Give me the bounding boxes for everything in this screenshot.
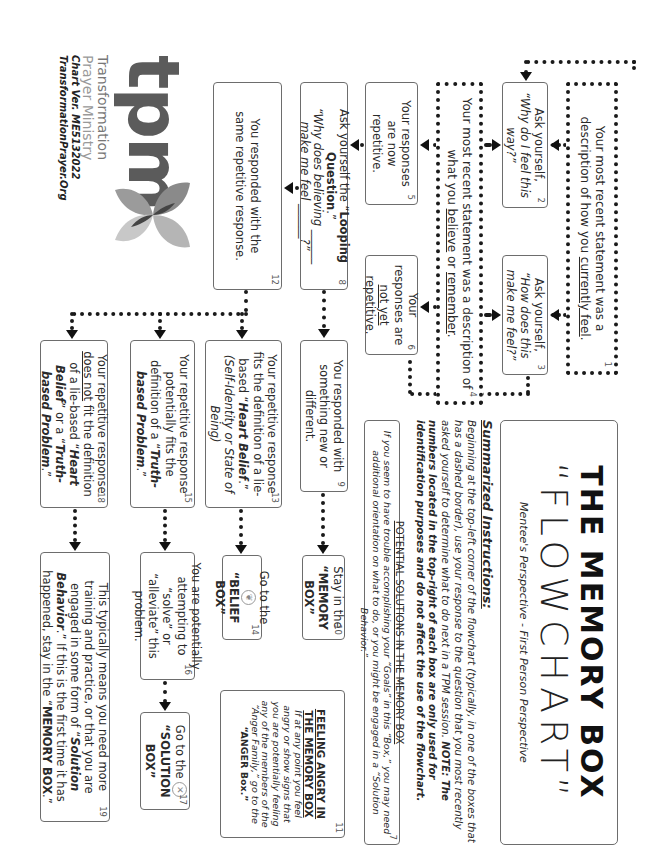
arrow	[550, 139, 559, 151]
box-1-text: Your most recent statement was a descrip…	[577, 94, 606, 363]
box-number: 5	[406, 195, 416, 200]
butterfly-leaf-icon	[110, 175, 195, 255]
box-number: 1	[603, 362, 613, 367]
perspective-label: Mentee's Perspective - First Person Pers…	[517, 421, 530, 844]
box-4-believe-remember: Your most recent statement was a descrip…	[436, 82, 483, 405]
connector	[322, 290, 326, 328]
arrow	[550, 309, 559, 321]
arrow	[520, 72, 532, 81]
connector	[408, 360, 412, 394]
arrow	[159, 702, 171, 711]
box-number: 15	[183, 492, 193, 503]
box-4-text: Your most recent statement was a descrip…	[445, 94, 474, 393]
box-7-heading: POTENTIAL SOLUTIONS IN THE MEMORY BOX	[393, 521, 405, 745]
box-number: 14	[250, 624, 260, 635]
title-box: THE MEMORY BOX “FLOWCHART” Mentee's Pers…	[500, 420, 618, 845]
belief-icon: ❦	[242, 590, 257, 605]
instructions-heading: Summarized Instructions:	[479, 420, 495, 845]
logo-line-1: Transformation	[95, 55, 110, 201]
flowchart-page: Your most recent statement was a descrip…	[0, 0, 660, 866]
box-10-text: Stay in the“MEMORY BOX”	[302, 564, 344, 631]
box-number: 18	[96, 492, 106, 503]
box-12-text: You responded with the same repetitive r…	[233, 91, 261, 281]
box-15-truth-problem: Your repetitive response potentially fit…	[130, 340, 195, 508]
box-9-new-response: You responded with something new or diff…	[300, 340, 348, 492]
arrow	[69, 542, 81, 551]
box-number: 13	[270, 492, 280, 503]
connector	[70, 312, 74, 330]
box-3-text: Ask yourself,“How does this make me feel…	[504, 264, 546, 366]
arrow	[492, 139, 501, 151]
anger-box-link[interactable]: “ANGER Box.”	[238, 727, 249, 802]
page-title: THE MEMORY BOX	[574, 421, 609, 844]
box-number: 9	[336, 482, 346, 487]
arrow	[318, 329, 330, 338]
box-6-text: Your responses are not yet repetitive.	[363, 264, 419, 346]
box-number: 3	[536, 365, 546, 370]
box-14-go-belief-box[interactable]: Go to the ❦“BELIEF BOX” 14	[222, 555, 262, 640]
box-15-text: Your repetitive response potentially fit…	[134, 349, 190, 499]
box-number: 8	[336, 280, 346, 285]
arrow	[154, 330, 166, 339]
chart-version: Chart Ver. ME5132022	[69, 55, 81, 201]
connector	[321, 493, 325, 545]
arrow	[284, 182, 293, 194]
box-11-heading: FEELING ANGRY IN THE MEMORY BOX	[303, 699, 327, 829]
box-18-text: Your repetitive response does not fit th…	[39, 349, 109, 499]
box-number: 7	[388, 835, 398, 840]
box-19-training-practice: This typically means you need more train…	[40, 552, 110, 822]
arrow	[159, 542, 171, 551]
box-17-text: Go to the ✕“SOLUTION BOX”	[143, 721, 186, 801]
tpm-logo: tpm Transformation Prayer Ministry Chart…	[20, 55, 190, 255]
connector	[239, 509, 243, 545]
box-number: 19	[98, 806, 108, 817]
box-2-text: Ask yourself,“Why do I feel this way?”	[504, 91, 546, 199]
arrow	[317, 545, 329, 554]
box-14-text: Go to the ❦“BELIEF BOX”	[213, 564, 270, 631]
box-19-text: This typically means you need more train…	[40, 561, 110, 813]
box-6-not-repetitive: Your responses are not yet repetitive. 6	[365, 255, 418, 355]
box-number: 10	[333, 624, 343, 635]
box-10-stay-memory-box: Stay in the“MEMORY BOX” 10	[302, 555, 345, 640]
connector	[158, 312, 162, 330]
box-number: 4	[468, 392, 478, 397]
logo-line-2: Prayer Ministry	[81, 55, 96, 201]
connector	[244, 290, 248, 312]
connector	[526, 376, 530, 394]
connector	[73, 509, 77, 542]
box-number: 12	[270, 274, 280, 285]
connector	[163, 509, 167, 542]
box-number: 11	[333, 822, 343, 833]
arrow	[236, 330, 248, 339]
box-11-feeling-angry: FEELING ANGRY IN THE MEMORY BOX If at an…	[220, 690, 345, 838]
box-3-how-feel: Ask yourself,“How does this make me feel…	[502, 255, 548, 375]
box-16-solve-alleviate: You are potentially attempting to “solve…	[140, 552, 195, 680]
box-number: 16	[183, 664, 193, 675]
arrow	[420, 301, 429, 313]
website-link[interactable]: TransformationPrayer.Org	[57, 55, 69, 201]
box-11-body: If at any point you feel angry or show s…	[249, 699, 304, 829]
connector	[484, 143, 492, 147]
box-12-same-response: You responded with the same repetitive r…	[213, 82, 282, 290]
arrow	[235, 545, 247, 554]
box-number: 2	[536, 198, 546, 203]
connector	[163, 681, 167, 703]
summarized-instructions: Summarized Instructions: Beginning at th…	[413, 420, 495, 845]
box-5-text: Your responses are now repetitive.	[370, 91, 412, 196]
arrow	[492, 309, 501, 321]
box-5-repetitive: Your responses are now repetitive. 5	[365, 82, 418, 205]
connector	[240, 312, 244, 330]
box-13-text: Your repetitive response fits the defini…	[208, 349, 278, 499]
box-8-text: Ask yourself the “Looping Question.”“Why…	[298, 91, 351, 281]
arrow	[420, 139, 429, 151]
box-number: 17	[178, 794, 188, 805]
box-18-neither: Your repetitive response does not fit th…	[40, 340, 108, 508]
box-number: 6	[406, 345, 416, 350]
box-9-text: You responded with something new or diff…	[303, 349, 345, 483]
box-2-why-feel: Ask yourself,“Why do I feel this way?” 2	[502, 82, 548, 208]
box-8-looping-question: Ask yourself the “Looping Question.”“Why…	[300, 82, 348, 290]
box-13-heart-belief: Your repetitive response fits the defini…	[205, 340, 282, 508]
box-7-potential-solutions: POTENTIAL SOLUTIONS IN THE MEMORY BOX If…	[364, 420, 400, 845]
arrow	[66, 330, 78, 339]
box-17-go-solution-box[interactable]: Go to the ✕“SOLUTION BOX” 17	[140, 712, 190, 810]
